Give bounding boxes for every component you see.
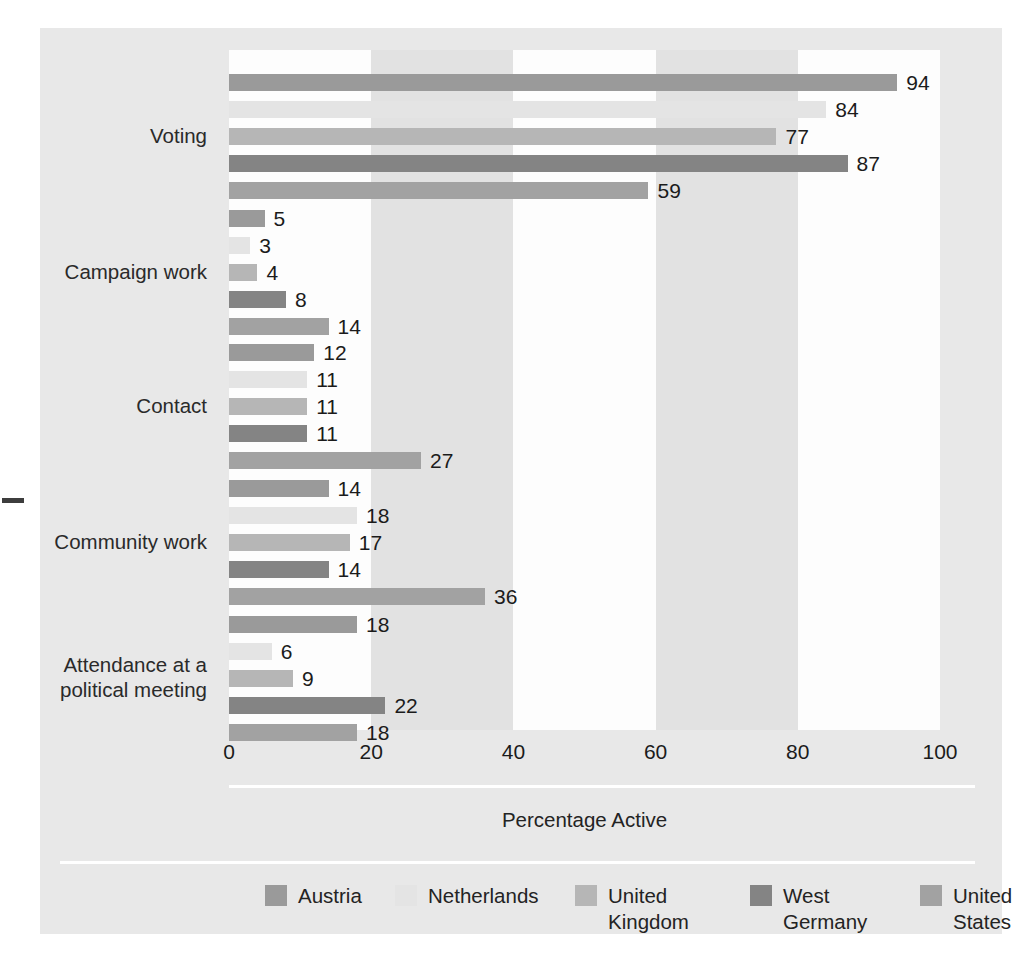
legend-item[interactable]: Austria xyxy=(265,883,362,909)
legend-swatch xyxy=(395,885,417,906)
bar-row: 11 xyxy=(229,425,940,442)
bar-value-label: 18 xyxy=(366,613,389,637)
legend-swatch xyxy=(575,885,597,906)
bar xyxy=(229,128,776,145)
x-tick-label: 80 xyxy=(786,740,809,764)
legend-swatch xyxy=(920,885,942,906)
legend-item[interactable]: United States xyxy=(920,883,1012,934)
x-tick-label: 60 xyxy=(644,740,667,764)
bar-group: 18692218 xyxy=(229,616,940,751)
bar-row: 4 xyxy=(229,264,940,281)
bar-row: 77 xyxy=(229,128,940,145)
x-tick-label: 0 xyxy=(223,740,235,764)
legend-divider xyxy=(60,861,975,864)
bar xyxy=(229,507,357,524)
bar-value-label: 14 xyxy=(338,315,361,339)
bar-value-label: 22 xyxy=(394,694,417,718)
bar xyxy=(229,616,357,633)
bar xyxy=(229,101,826,118)
bar-value-label: 11 xyxy=(316,422,338,446)
bar-value-label: 9 xyxy=(302,667,314,691)
bar-value-label: 11 xyxy=(316,368,338,392)
bar-group: 9484778759 xyxy=(229,74,940,209)
bar xyxy=(229,210,265,227)
bar-group: 534814 xyxy=(229,210,940,345)
bar-row: 18 xyxy=(229,724,940,741)
legend-label: United Kingdom xyxy=(608,883,689,934)
bar-group: 1418171436 xyxy=(229,480,940,615)
bar-value-label: 59 xyxy=(657,179,680,203)
bar xyxy=(229,344,314,361)
x-tick-label: 20 xyxy=(360,740,383,764)
bar xyxy=(229,588,485,605)
page-margin-mark xyxy=(2,498,24,503)
bar xyxy=(229,237,250,254)
bar-row: 3 xyxy=(229,237,940,254)
bar-value-label: 18 xyxy=(366,504,389,528)
bar xyxy=(229,264,257,281)
bar-value-label: 36 xyxy=(494,585,517,609)
bar xyxy=(229,480,329,497)
bar-row: 14 xyxy=(229,561,940,578)
bar xyxy=(229,425,307,442)
bar-value-label: 14 xyxy=(338,558,361,582)
bar-row: 87 xyxy=(229,155,940,172)
bar-row: 94 xyxy=(229,74,940,91)
bar-row: 17 xyxy=(229,534,940,551)
category-label: Community work xyxy=(0,529,207,554)
legend-label: Netherlands xyxy=(428,883,539,909)
bar-value-label: 12 xyxy=(323,341,346,365)
bar-value-label: 94 xyxy=(906,71,929,95)
x-axis-title: Percentage Active xyxy=(229,808,940,832)
bar-row: 84 xyxy=(229,101,940,118)
bar-row: 14 xyxy=(229,480,940,497)
bar xyxy=(229,155,848,172)
legend-item[interactable]: West Germany xyxy=(750,883,867,934)
bar xyxy=(229,318,329,335)
bar-row: 11 xyxy=(229,398,940,415)
bar-row: 22 xyxy=(229,697,940,714)
bar-row: 5 xyxy=(229,210,940,227)
bar-value-label: 14 xyxy=(338,477,361,501)
chart-panel: 9484778759534814121111112714181714361869… xyxy=(40,28,1002,934)
bar xyxy=(229,452,421,469)
bar xyxy=(229,670,293,687)
bar xyxy=(229,398,307,415)
bar-value-label: 4 xyxy=(266,261,278,285)
bar-row: 11 xyxy=(229,371,940,388)
category-label: Attendance at a political meeting xyxy=(0,652,207,702)
bar xyxy=(229,561,329,578)
legend-swatch xyxy=(265,885,287,906)
bar-value-label: 11 xyxy=(316,395,338,419)
bar-value-label: 87 xyxy=(857,152,880,176)
bar-value-label: 17 xyxy=(359,531,382,555)
bar-row: 18 xyxy=(229,507,940,524)
legend-label: Austria xyxy=(298,883,362,909)
bar-value-label: 77 xyxy=(785,125,808,149)
bar xyxy=(229,182,648,199)
bar-row: 8 xyxy=(229,291,940,308)
category-label: Voting xyxy=(0,123,207,148)
legend-label: United States xyxy=(953,883,1012,934)
bar xyxy=(229,724,357,741)
bar-value-label: 84 xyxy=(835,98,858,122)
bar-row: 9 xyxy=(229,670,940,687)
bar-row: 14 xyxy=(229,318,940,335)
bar-row: 18 xyxy=(229,616,940,633)
x-tick-label: 40 xyxy=(502,740,525,764)
bar-value-label: 8 xyxy=(295,288,307,312)
category-label: Campaign work xyxy=(0,259,207,284)
bar-value-label: 27 xyxy=(430,449,453,473)
legend-item[interactable]: Netherlands xyxy=(395,883,539,909)
bar xyxy=(229,643,272,660)
legend-item[interactable]: United Kingdom xyxy=(575,883,689,934)
bar-group: 1211111127 xyxy=(229,344,940,479)
bar xyxy=(229,291,286,308)
bar-row: 6 xyxy=(229,643,940,660)
bar-row: 36 xyxy=(229,588,940,605)
bar xyxy=(229,371,307,388)
bar-row: 12 xyxy=(229,344,940,361)
x-tick-label: 100 xyxy=(922,740,957,764)
bar-row: 27 xyxy=(229,452,940,469)
category-label: Contact xyxy=(0,393,207,418)
